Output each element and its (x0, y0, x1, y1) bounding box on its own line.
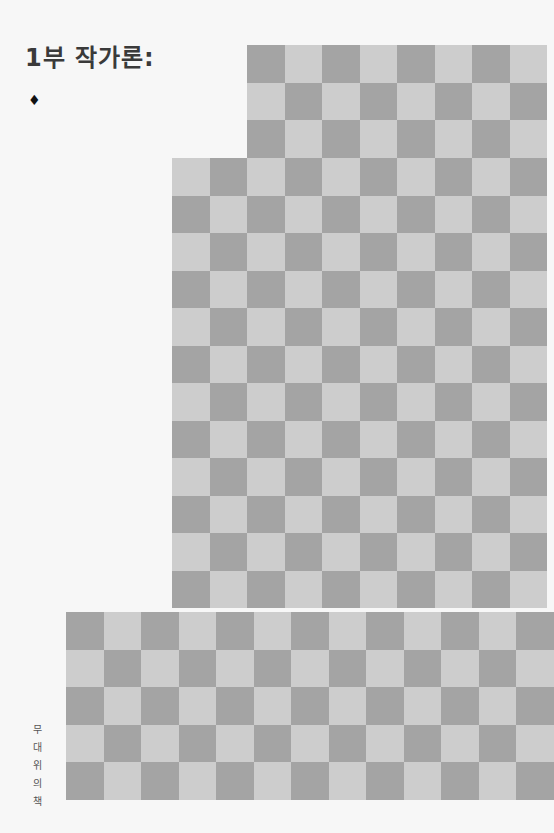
checker-cell (404, 612, 442, 650)
checker-cell (435, 571, 473, 609)
checker-cell (472, 158, 510, 196)
checker-cell (397, 158, 435, 196)
checker-cell (104, 762, 142, 800)
checker-cell (322, 120, 360, 158)
checker-cell (397, 120, 435, 158)
checker-cell (322, 308, 360, 346)
checker-cell (210, 421, 248, 459)
checker-cell (397, 571, 435, 609)
checker-cell (285, 83, 323, 121)
checker-cell (247, 120, 285, 158)
checker-cell (247, 458, 285, 496)
checker-cell (479, 725, 517, 763)
checker-cell (472, 458, 510, 496)
footer-char: 위 (30, 760, 44, 772)
checker-cell (397, 458, 435, 496)
checker-cell (472, 346, 510, 384)
checker-cell (210, 571, 248, 609)
checker-cell (397, 346, 435, 384)
checker-cell (435, 308, 473, 346)
checker-cell (360, 233, 398, 271)
checker-cell (247, 271, 285, 309)
checker-cell (435, 346, 473, 384)
checker-cell (435, 233, 473, 271)
checker-cell (104, 612, 142, 650)
checker-cell (322, 571, 360, 609)
checker-cell (516, 725, 554, 763)
checker-cell (366, 650, 404, 688)
checker-cell (291, 725, 329, 763)
checker-cell (104, 687, 142, 725)
checker-cell (435, 383, 473, 421)
checker-cell (322, 533, 360, 571)
checker-cell (210, 458, 248, 496)
checker-cell (247, 158, 285, 196)
checker-cell (435, 533, 473, 571)
checker-cell (366, 687, 404, 725)
checker-cell (285, 120, 323, 158)
checker-cell (397, 196, 435, 234)
checker-cell (435, 120, 473, 158)
checker-cell (172, 308, 210, 346)
checker-cell (66, 687, 104, 725)
checker-cell (441, 612, 479, 650)
checker-cell (435, 83, 473, 121)
checker-cell (285, 233, 323, 271)
checker-cell (291, 762, 329, 800)
checker-cell (66, 612, 104, 650)
checker-cell (104, 725, 142, 763)
footer-char: 대 (30, 742, 44, 754)
footer-char: 책 (30, 796, 44, 808)
checker-cell (510, 158, 548, 196)
checker-cell (104, 650, 142, 688)
checker-cell (322, 346, 360, 384)
checker-cell (404, 687, 442, 725)
checker-cell (210, 533, 248, 571)
checker-cell (360, 346, 398, 384)
checker-cell (510, 233, 548, 271)
checker-cell (360, 158, 398, 196)
checker-cell (366, 612, 404, 650)
checker-cell (360, 83, 398, 121)
checker-cell (322, 233, 360, 271)
checker-cell (510, 571, 548, 609)
checker-cell (285, 383, 323, 421)
checker-cell (172, 496, 210, 534)
checker-cell (210, 158, 248, 196)
checker-cell (254, 612, 292, 650)
checker-cell (435, 158, 473, 196)
checker-cell (516, 762, 554, 800)
checker-cell (360, 421, 398, 459)
checker-cell (472, 83, 510, 121)
chapter-title: 1부 작가론: (25, 38, 155, 73)
checker-cell (435, 458, 473, 496)
checker-cell (285, 308, 323, 346)
checker-cell (322, 196, 360, 234)
checker-cell (516, 650, 554, 688)
checker-cell (510, 383, 548, 421)
checker-cell (472, 45, 510, 83)
checker-cell (397, 308, 435, 346)
checker-cell (141, 650, 179, 688)
checker-cell (435, 421, 473, 459)
checker-cell (329, 725, 367, 763)
checker-cell (479, 762, 517, 800)
checker-cell (366, 762, 404, 800)
diamond-bullet-icon: ♦ (28, 92, 41, 108)
checker-cell (360, 571, 398, 609)
checker-cell (510, 308, 548, 346)
checker-cell (210, 308, 248, 346)
checker-cell (210, 196, 248, 234)
checker-cell (516, 687, 554, 725)
checker-cell (172, 421, 210, 459)
checker-cell (179, 687, 217, 725)
checker-cell (404, 762, 442, 800)
checker-cell (322, 158, 360, 196)
checker-cell (360, 383, 398, 421)
checker-cell (254, 725, 292, 763)
checker-cell (510, 45, 548, 83)
checker-cell (172, 571, 210, 609)
checker-cell (179, 762, 217, 800)
checker-cell (472, 271, 510, 309)
checker-cell (360, 533, 398, 571)
